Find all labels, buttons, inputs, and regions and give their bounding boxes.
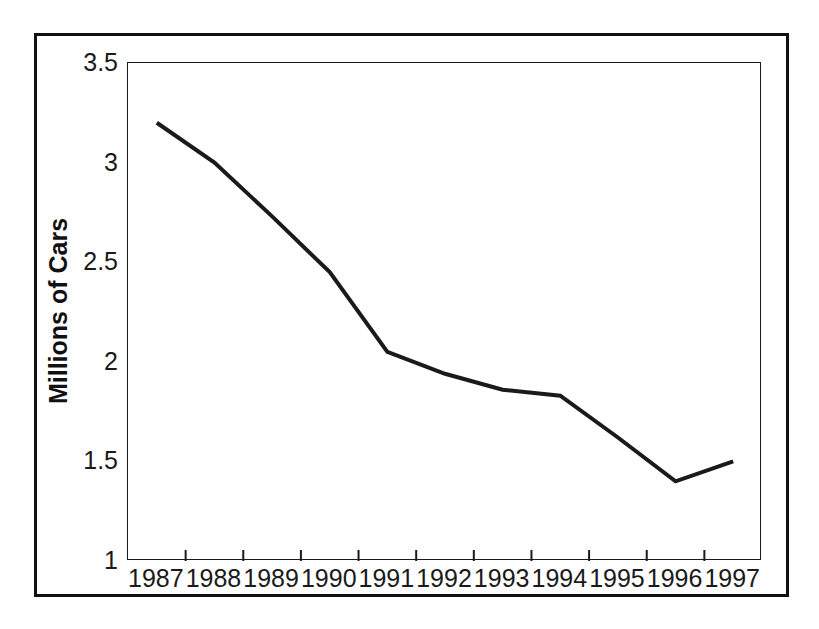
x-tick-label-1995: 1995 xyxy=(588,566,646,602)
data-series-line xyxy=(157,123,733,482)
chart-figure: Millions of Cars 3.5 3 2.5 2 1.5 1 1987 … xyxy=(0,0,819,629)
x-tick-label-1991: 1991 xyxy=(358,566,416,602)
x-axis-tick-labels: 1987 1988 1989 1990 1991 1992 1993 1994 … xyxy=(127,566,761,602)
y-tick-label-3: 3 xyxy=(104,150,118,175)
x-tick-label-1997: 1997 xyxy=(703,566,761,602)
y-tick-label-2: 2 xyxy=(104,349,118,374)
y-tick-label-3-5: 3.5 xyxy=(83,50,118,75)
x-tick-label-1990: 1990 xyxy=(300,566,358,602)
x-tick-label-1996: 1996 xyxy=(646,566,704,602)
plot-area xyxy=(127,62,761,560)
x-tick-label-1987: 1987 xyxy=(127,566,185,602)
x-tick-label-1994: 1994 xyxy=(530,566,588,602)
x-tick-label-1992: 1992 xyxy=(415,566,473,602)
x-axis-tick-marks xyxy=(186,550,705,561)
y-tick-label-1-5: 1.5 xyxy=(83,448,118,473)
y-tick-label-2-5: 2.5 xyxy=(83,249,118,274)
x-tick-label-1993: 1993 xyxy=(473,566,531,602)
x-tick-label-1989: 1989 xyxy=(242,566,300,602)
y-tick-label-1: 1 xyxy=(104,548,118,573)
x-tick-label-1988: 1988 xyxy=(185,566,243,602)
y-axis-tick-labels: 3.5 3 2.5 2 1.5 1 xyxy=(0,0,118,629)
data-line-chart xyxy=(128,63,762,561)
